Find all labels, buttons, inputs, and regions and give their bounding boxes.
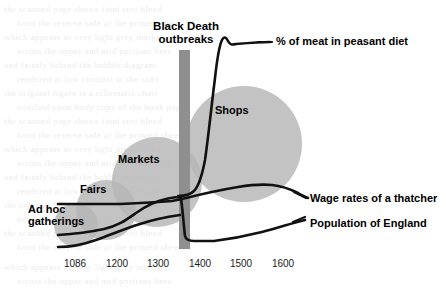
bubble-label-ad-hoc-line2: gatherings [28,215,84,227]
x-axis-tick-1300: 1300 [147,258,169,269]
x-axis-tick-1600: 1600 [272,258,294,269]
x-axis-tick-row: 108612001300140015001600 [0,258,446,274]
black-death-label-line1: Black Death [140,20,232,33]
black-death-label: Black Death outbreaks [140,20,232,46]
x-axis-tick-1200: 1200 [106,258,128,269]
series-label-wage-rates: Wage rates of a thatcher [310,192,437,204]
bubble-label-fairs: Fairs [80,183,106,195]
bubble-label-ad-hoc-line1: Ad hoc [28,203,84,215]
x-axis-tick-1400: 1400 [189,258,211,269]
series-label-population: Population of England [310,217,427,229]
bubble-label-ad-hoc-gatherings: Ad hoc gatherings [28,203,84,228]
bubble-label-shops: Shops [215,104,249,116]
x-axis-tick-1086: 1086 [64,258,86,269]
series-label-percent-meat: % of meat in peasant diet [276,35,408,47]
figure-container: the scanned page shows faint text bleedf… [0,0,446,297]
x-axis-tick-1500: 1500 [230,258,252,269]
bubble-label-markets: Markets [118,153,160,165]
black-death-label-line2: outbreaks [140,33,232,46]
bubble-group [54,86,302,247]
